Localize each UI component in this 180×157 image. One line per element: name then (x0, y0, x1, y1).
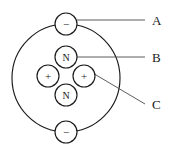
electron-top: − (55, 13, 77, 35)
callout-label-b: B (152, 50, 161, 65)
callout-label-a: A (152, 13, 162, 28)
neutron-top: N (55, 46, 77, 68)
electron-bottom: − (55, 121, 77, 143)
leader-line-c (91, 72, 145, 104)
callout-label-c: C (152, 97, 161, 112)
electron-top-glyph: − (63, 18, 69, 30)
neutron-bottom: N (55, 84, 77, 106)
neutron-top-glyph: N (62, 52, 69, 63)
electron-bottom-glyph: − (63, 126, 69, 138)
neutron-bottom-glyph: N (62, 90, 69, 101)
proton-left-glyph: + (45, 70, 51, 82)
proton-right: + (73, 65, 95, 87)
atom-structure-diagram: − − N + + N A B C (0, 0, 180, 157)
proton-right-glyph: + (81, 70, 87, 82)
electron-orbit-circle (12, 24, 120, 132)
proton-left: + (37, 65, 59, 87)
